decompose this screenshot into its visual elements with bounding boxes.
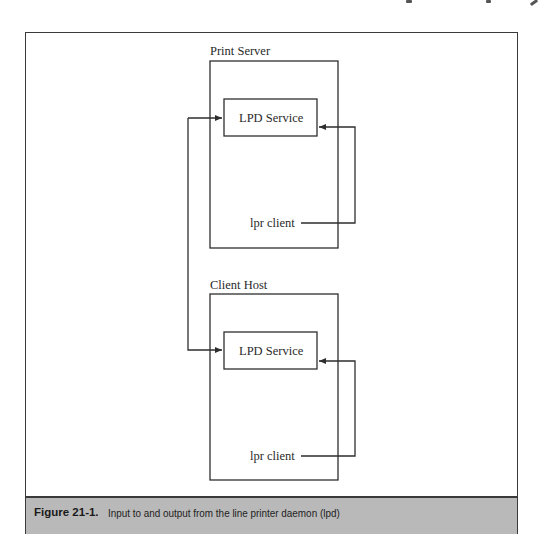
print-server-lpd-service-label: LPD Service	[239, 112, 303, 125]
client-host-label: Client Host	[210, 279, 267, 292]
client-host-lpr-client-label: lpr client	[250, 450, 295, 463]
figure-number: Figure 21-1.	[34, 506, 99, 518]
client-host-lpr-to-lpd-arrow	[301, 361, 355, 456]
figure-caption: Input to and output from the line printe…	[108, 507, 340, 519]
print-server-label: Print Server	[210, 45, 270, 58]
print-server-lpr-client-label: lpr client	[250, 217, 295, 230]
figure-caption-bar: Figure 21-1. Input to and output from th…	[25, 496, 518, 534]
print-server-lpr-to-lpd-arrow	[301, 127, 355, 223]
lpd-interconnect-arrow	[188, 118, 222, 350]
client-host-lpd-service-label: LPD Service	[239, 345, 303, 358]
